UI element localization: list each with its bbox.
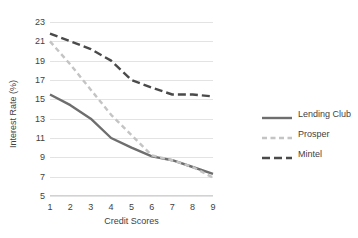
y-axis-tick-label: 17: [35, 76, 45, 85]
x-axis-tick-label: 4: [109, 203, 114, 212]
x-axis-tick-label: 7: [170, 203, 175, 212]
x-axis-tick-label: 9: [210, 203, 215, 212]
legend-swatch-icon: [262, 149, 292, 159]
x-axis-tick-label: 2: [68, 203, 73, 212]
x-axis-tick-label: 8: [190, 203, 195, 212]
gridline: [50, 196, 213, 197]
interest-rate-line-chart: 23211917151311975123456789 Credit Scores…: [0, 0, 358, 238]
y-axis-title: Interest Rate (%): [8, 49, 18, 179]
series-overlay: [50, 22, 213, 196]
x-axis-title: Credit Scores: [50, 216, 213, 226]
x-axis-tick-label: 5: [129, 203, 134, 212]
x-axis-tick-label: 3: [88, 203, 93, 212]
chart-title-remnant: [150, 0, 340, 4]
y-axis-tick-label: 19: [35, 56, 45, 65]
y-axis-tick-label: 21: [35, 37, 45, 46]
legend-swatch-icon: [262, 129, 292, 139]
legend-label: Prosper: [298, 130, 330, 139]
series-line: [50, 41, 213, 177]
y-axis-tick-label: 15: [35, 95, 45, 104]
y-axis-tick-label: 9: [40, 153, 45, 162]
y-axis-tick-label: 11: [36, 134, 45, 143]
legend-label: Lending Club: [298, 110, 351, 119]
y-axis-tick-label: 7: [40, 172, 45, 181]
legend-swatch-icon: [262, 109, 292, 119]
legend-item[interactable]: Prosper: [262, 124, 358, 144]
legend-label: Mintel: [298, 150, 322, 159]
x-axis-tick-label: 6: [149, 203, 154, 212]
chart-legend: Lending ClubProsperMintel: [262, 104, 358, 164]
y-axis-tick-label: 5: [40, 192, 45, 201]
legend-item[interactable]: Lending Club: [262, 104, 358, 124]
y-axis-tick-label: 13: [35, 114, 45, 123]
series-line: [50, 34, 213, 97]
legend-item[interactable]: Mintel: [262, 144, 358, 164]
y-axis-tick-label: 23: [35, 18, 45, 27]
x-axis-tick-label: 1: [47, 203, 52, 212]
